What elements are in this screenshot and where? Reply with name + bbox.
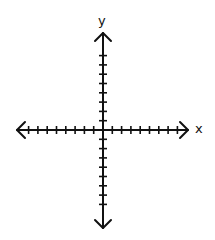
coordinate-plane <box>0 0 215 240</box>
y-axis-label: y <box>98 14 106 27</box>
x-axis-label: x <box>195 122 203 135</box>
